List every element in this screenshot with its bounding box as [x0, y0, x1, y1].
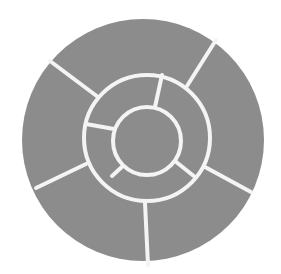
center-stone	[113, 107, 181, 175]
diagram-stage	[0, 0, 281, 274]
center-disc	[113, 107, 181, 175]
segmented-circle-diagram	[0, 0, 281, 274]
